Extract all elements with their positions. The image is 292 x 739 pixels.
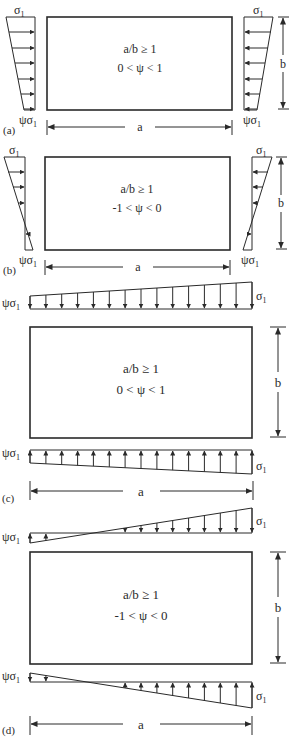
bottom-edge-load: [30, 450, 252, 474]
sigma1-label: σ1: [256, 689, 266, 705]
psi-condition: -1 < ψ < 0: [114, 608, 167, 623]
panel-label: (a): [3, 124, 16, 137]
panel-label: (d): [2, 724, 15, 737]
aspect-ratio-condition: a/b ≥ 1: [123, 42, 156, 56]
psi-sigma1-label: ψσ1: [243, 113, 261, 129]
sigma1-label: σ1: [256, 459, 266, 475]
svg-text:a: a: [138, 717, 144, 732]
psi-sigma1-label: ψσ1: [19, 113, 37, 129]
sigma1-label: σ1: [256, 514, 266, 530]
top-edge-load: [30, 508, 252, 543]
psi-sigma1-label: ψσ1: [2, 530, 20, 546]
psi-condition: 0 < ψ < 1: [117, 382, 166, 397]
sigma1-label: σ1: [253, 3, 263, 19]
right-edge-load: [244, 17, 273, 110]
dimension-b: b: [278, 17, 289, 109]
panel-label: (b): [3, 264, 16, 277]
svg-text:a: a: [137, 120, 143, 134]
aspect-ratio-condition: a/b ≥ 1: [123, 587, 159, 602]
sigma1-label: σ1: [256, 143, 266, 159]
right-edge-load: [243, 157, 272, 250]
svg-text:b: b: [275, 600, 282, 615]
sigma1-label: σ1: [256, 289, 266, 305]
panel-c: ψσ1 σ1 a/b ≥ 1 0 < ψ < 1 b ψσ1 σ1 a: [2, 282, 286, 505]
psi-sigma1-label: ψσ1: [241, 253, 259, 269]
bottom-edge-load: [30, 673, 252, 708]
sigma1-label: σ1: [14, 3, 24, 19]
panel-label: (c): [2, 492, 15, 505]
psi-condition: -1 < ψ < 0: [112, 201, 161, 215]
svg-text:b: b: [280, 57, 286, 71]
svg-text:b: b: [278, 196, 284, 210]
dimension-a: a: [30, 481, 253, 500]
sigma1-label: σ1: [9, 143, 19, 159]
aspect-ratio-condition: a/b ≥ 1: [120, 182, 153, 196]
dimension-a: a: [47, 120, 232, 135]
svg-text:a: a: [138, 484, 144, 499]
psi-sigma1-label: ψσ1: [2, 669, 20, 685]
svg-text:a: a: [135, 260, 141, 274]
dimension-a: a: [45, 260, 230, 275]
psi-condition: 0 < ψ < 1: [117, 61, 162, 75]
dimension-b: b: [276, 157, 287, 249]
dimension-a: a: [30, 716, 252, 735]
panel-d: ψσ1 σ1 a/b ≥ 1 -1 < ψ < 0 b ψσ1 σ1 a (d): [2, 508, 286, 737]
top-edge-load: [30, 282, 252, 309]
psi-sigma1-label: ψσ1: [2, 296, 20, 312]
dimension-b: b: [270, 327, 286, 437]
panel-a: σ1 ψσ1 (a) a/b ≥ 1 0 < ψ < 1 σ1 ψσ1 b: [3, 3, 289, 137]
psi-sigma1-label: ψσ1: [19, 253, 37, 269]
left-edge-load: [6, 17, 35, 110]
left-edge-load: [4, 157, 33, 250]
aspect-ratio-condition: a/b ≥ 1: [123, 361, 159, 376]
panel-b: σ1 ψσ1 (b) a/b ≥ 1 -1 < ψ < 0 σ1 ψσ1 b: [3, 143, 287, 277]
dimension-b: b: [270, 552, 286, 663]
svg-text:b: b: [275, 375, 282, 390]
psi-sigma1-label: ψσ1: [2, 446, 20, 462]
plate-buckling-diagram: σ1 ψσ1 (a) a/b ≥ 1 0 < ψ < 1 σ1 ψσ1 b: [0, 0, 292, 739]
